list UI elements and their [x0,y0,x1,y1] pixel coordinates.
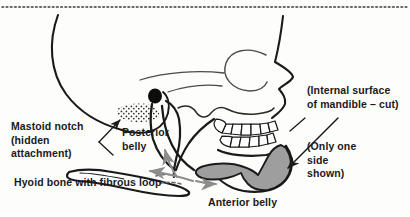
orbit-outline [225,50,267,91]
label-mastoid-notch: Mastoid notch (hidden attachment) [11,120,83,161]
facial-profile-outline [272,16,293,118]
label-hyoid-bone: Hyoid bone with fibrous loop [14,176,161,190]
anatomical-figure: Mastoid notch (hidden attachment) Poster… [0,0,410,217]
zygomatic-arch [140,72,224,92]
label-internal-surface-of-mandible: (Internal surface of mandible – cut) [307,84,399,111]
maxillary-teeth [214,119,278,135]
maxilla-outline [178,106,274,117]
label-posterior-belly: Posterior belly [122,126,169,153]
styloid-process [148,89,162,104]
label-anterior-belly: Anterior belly [208,196,277,210]
cranium-outline [52,15,122,130]
label-only-one-side-shown: (Only one side shown) [307,140,356,181]
leader-internal-surface [290,118,305,131]
mastoid-notch-stipple [117,104,159,123]
